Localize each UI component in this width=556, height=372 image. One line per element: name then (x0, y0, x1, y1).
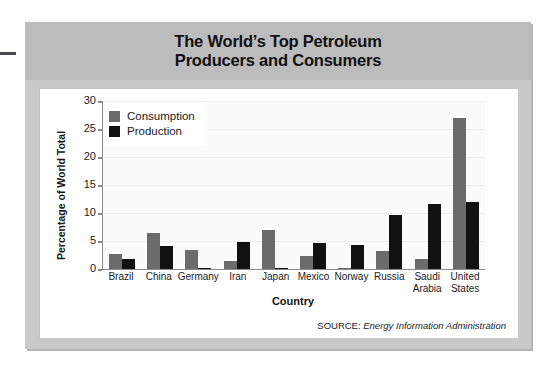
bar-consumption (338, 268, 351, 269)
legend-item-production: Production (109, 125, 195, 137)
bar-group (453, 101, 479, 269)
title-line-1: The World’s Top Petroleum (174, 32, 381, 51)
x-tick-label-line: Brazil (102, 271, 140, 283)
bar-group (415, 101, 441, 269)
x-tick-label: Russia (370, 271, 408, 295)
bar-production (389, 215, 402, 269)
y-tick-mark (98, 213, 102, 215)
chart-page: The World’s Top Petroleum Producers and … (0, 0, 556, 372)
y-tick-mark (98, 129, 102, 131)
bar-consumption (453, 118, 466, 269)
x-tick-label-line: United (446, 271, 484, 283)
legend-swatch-production (109, 126, 120, 137)
bar-production (122, 259, 135, 269)
y-tick-mark (98, 185, 102, 187)
x-tick-label-line: China (140, 271, 178, 283)
title-band: The World’s Top Petroleum Producers and … (25, 22, 531, 80)
figure-card: The World’s Top Petroleum Producers and … (25, 22, 531, 349)
legend-swatch-consumption (109, 111, 120, 122)
bar-group (262, 101, 288, 269)
bar-group (300, 101, 326, 269)
source-note: SOURCE: Energy Information Administratio… (317, 320, 506, 331)
bar-group (224, 101, 250, 269)
y-tick-label: 25 (70, 122, 96, 134)
x-tick-label-line: Iran (219, 271, 257, 283)
bar-production (160, 246, 173, 269)
bar-group (338, 101, 364, 269)
y-tick-label: 15 (70, 178, 96, 190)
y-tick-mark (98, 157, 102, 159)
bar-production (428, 204, 441, 269)
legend: Consumption Production (103, 102, 207, 146)
x-tick-label-line: Arabia (408, 283, 446, 295)
bar-consumption (262, 230, 275, 269)
bar-production (351, 245, 364, 269)
bar-production (198, 268, 211, 269)
source-prefix: SOURCE: (317, 320, 360, 331)
y-tick-label: 10 (70, 206, 96, 218)
x-tick-label-line: Japan (257, 271, 295, 283)
x-tick-label-line: Russia (370, 271, 408, 283)
bar-consumption (147, 233, 160, 269)
x-tick-label: Germany (178, 271, 219, 295)
y-tick-mark (98, 241, 102, 243)
y-tick-label: 30 (70, 94, 96, 106)
y-tick-mark (98, 101, 102, 103)
y-tick-label: 0 (70, 262, 96, 274)
bar-consumption (376, 251, 389, 269)
x-tick-label: Mexico (295, 271, 333, 295)
x-tick-label: China (140, 271, 178, 295)
legend-label-production: Production (127, 125, 182, 137)
x-tick-label-line: Norway (333, 271, 371, 283)
x-axis-title: Country (102, 295, 484, 307)
bar-production (466, 202, 479, 269)
legend-label-consumption: Consumption (127, 110, 195, 122)
x-tick-label-line: Saudi (408, 271, 446, 283)
bar-production (237, 242, 250, 269)
y-axis-title: Percentage of World Total (55, 140, 69, 260)
bar-consumption (300, 256, 313, 269)
bar-consumption (109, 254, 122, 269)
y-tick-label: 20 (70, 150, 96, 162)
x-tick-label-line: Mexico (295, 271, 333, 283)
bar-production (275, 268, 288, 269)
x-tick-label: Japan (257, 271, 295, 295)
x-tick-label: UnitedStates (446, 271, 484, 295)
x-tick-label-line: States (446, 283, 484, 295)
y-tick-label: 5 (70, 234, 96, 246)
x-tick-label: Brazil (102, 271, 140, 295)
bar-consumption (185, 250, 198, 269)
x-tick-label: Iran (219, 271, 257, 295)
chart-panel: Percentage of World Total 051015202530 B… (39, 88, 519, 339)
source-name: Energy Information Administration (363, 320, 506, 331)
page-edge-mark (0, 52, 16, 55)
x-axis-labels: BrazilChinaGermanyIranJapanMexicoNorwayR… (102, 271, 484, 295)
page-title: The World’s Top Petroleum Producers and … (174, 32, 381, 70)
x-tick-label-line: Germany (178, 271, 219, 283)
legend-item-consumption: Consumption (109, 110, 195, 122)
bar-group (376, 101, 402, 269)
title-line-2: Producers and Consumers (174, 51, 381, 70)
x-tick-label: SaudiArabia (408, 271, 446, 295)
plot-wrapper: Percentage of World Total 051015202530 B… (40, 89, 518, 338)
x-tick-label: Norway (333, 271, 371, 295)
bar-consumption (224, 261, 237, 269)
bar-production (313, 243, 326, 269)
bar-consumption (415, 259, 428, 269)
